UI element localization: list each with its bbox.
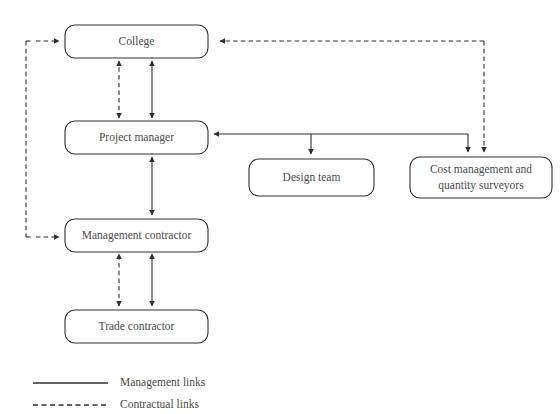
node-trade-contractor[interactable]: Trade contractor — [65, 310, 208, 343]
node-management-contractor[interactable]: Management contractor — [65, 219, 208, 252]
legend-item-management-links: Management links — [33, 376, 206, 389]
node-cost-management-label-line1: Cost management and — [430, 163, 532, 176]
node-design-team[interactable]: Design team — [249, 159, 374, 196]
legend-contractual-links-label: Contractual links — [120, 398, 199, 410]
node-college-label: College — [119, 35, 155, 48]
legend-management-links-label: Management links — [120, 376, 206, 389]
node-design-team-label: Design team — [283, 171, 341, 184]
node-project-manager[interactable]: Project manager — [65, 121, 208, 154]
link-project-manager-consultants-management — [214, 134, 468, 154]
link-college-management-contractor-contractual — [26, 41, 59, 237]
organisation-chart: College Project manager Design team Cost… — [0, 0, 560, 414]
legend-item-contractual-links: Contractual links — [33, 398, 199, 410]
link-college-cost-management-contractual — [220, 41, 484, 152]
node-cost-management-label-line2: quantity surveyors — [438, 179, 524, 192]
node-trade-contractor-label: Trade contractor — [99, 320, 175, 332]
node-management-contractor-label: Management contractor — [82, 229, 192, 242]
node-cost-management[interactable]: Cost management and quantity surveyors — [410, 157, 552, 198]
legend: Management links Contractual links — [33, 376, 206, 410]
node-project-manager-label: Project manager — [99, 131, 174, 144]
diagram-canvas: College Project manager Design team Cost… — [0, 0, 560, 414]
node-college[interactable]: College — [65, 25, 208, 58]
